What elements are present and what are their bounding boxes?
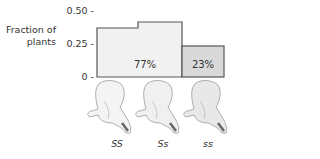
genotype-label-ss: ss [193, 138, 223, 149]
genotype-label-Ss: Ss [148, 138, 178, 149]
genotype-label-SS: SS [102, 138, 132, 149]
snapdragon-flower-icon [182, 79, 232, 137]
bar-label-23: 23% [192, 59, 214, 70]
snapdragon-flower-icon [134, 79, 184, 137]
snapdragon-flower-icon [86, 79, 136, 137]
bar-label-77: 77% [134, 59, 156, 70]
